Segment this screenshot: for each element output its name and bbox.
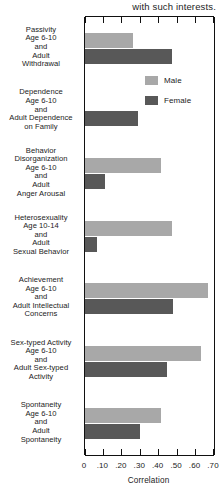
bar-male-5 — [85, 346, 201, 361]
x-axis-tick-bot-7 — [213, 449, 214, 455]
plot-area: MaleFemale — [84, 17, 215, 455]
bar-female-0 — [85, 49, 172, 64]
category-label: HeterosexualityAge 10-14andAdultSexual B… — [0, 214, 82, 257]
x-tick-label: .50 — [170, 461, 181, 470]
axis-line-bottom — [85, 455, 214, 456]
category-label-line: Spontaneity — [0, 436, 82, 445]
x-axis-tick-bot-6 — [195, 449, 196, 455]
x-axis-tick-bot-5 — [177, 449, 178, 455]
category-label-line: Anger Arousal — [0, 190, 82, 199]
x-axis-tick-top-3 — [140, 17, 141, 23]
category-label: AchievementAge 6-10andAdult Intellectual… — [0, 276, 82, 319]
category-label-line: Concerns — [0, 310, 82, 319]
bar-chart-figure: PassivityAge 6-10andAdultWithdrawalDepen… — [0, 15, 222, 491]
chart-legend: MaleFemale — [145, 73, 211, 113]
x-tick-label: .10 — [97, 461, 108, 470]
x-axis-tick-top-1 — [103, 17, 104, 23]
legend-item: Female — [145, 93, 211, 108]
x-axis-tick-top-6 — [195, 17, 196, 23]
x-axis-tick-top-2 — [121, 17, 122, 23]
category-label: SpontaneityAge 6-10andAdultSpontaneity — [0, 401, 82, 444]
category-label-column: PassivityAge 6-10andAdultWithdrawalDepen… — [0, 15, 84, 455]
legend-label: Male — [164, 76, 182, 85]
category-label-line: on Family — [0, 123, 82, 132]
x-tick-label: .20 — [115, 461, 126, 470]
bar-female-3 — [85, 237, 97, 252]
x-axis-tick-top-5 — [177, 17, 178, 23]
legend-label: Female — [164, 96, 191, 105]
x-axis-tick-top-4 — [158, 17, 159, 23]
figure-caption: with such interests. — [0, 0, 222, 15]
x-tick-label: .70 — [207, 461, 218, 470]
x-axis-tick-bot-3 — [140, 449, 141, 455]
x-axis-tick-bot-0 — [84, 449, 85, 455]
x-axis-tick-bot-1 — [103, 449, 104, 455]
category-label: BehaviorDisorganizationAge 6-10andAdultA… — [0, 147, 82, 199]
category-label: PassivityAge 6-10andAdultWithdrawal — [0, 26, 82, 69]
x-axis-tick-top-0 — [84, 17, 85, 23]
bar-male-3 — [85, 221, 172, 236]
legend-item: Male — [145, 73, 211, 88]
x-axis-tick-bot-2 — [121, 449, 122, 455]
bar-male-0 — [85, 33, 133, 48]
bar-male-2 — [85, 158, 161, 173]
x-tick-label: .30 — [134, 461, 145, 470]
legend-swatch-female — [145, 96, 158, 105]
bar-female-4 — [85, 299, 173, 314]
category-label: Sex-typed ActivityAge 6-10andAdult Sex-t… — [0, 339, 82, 382]
x-axis-tick-labels: 0.10.20.30.40.50.60.70 — [84, 461, 213, 473]
category-label-line: Activity — [0, 373, 82, 382]
x-tick-label: .40 — [152, 461, 163, 470]
bar-female-2 — [85, 174, 105, 189]
x-axis-tick-top-7 — [213, 17, 214, 23]
x-axis-title: Correlation — [84, 476, 213, 485]
bar-female-1 — [85, 111, 138, 126]
bar-female-6 — [85, 424, 140, 439]
bar-male-4 — [85, 283, 208, 298]
x-tick-label: .60 — [189, 461, 200, 470]
legend-swatch-male — [145, 76, 158, 85]
category-label-line: Withdrawal — [0, 60, 82, 69]
category-label-line: Sexual Behavior — [0, 248, 82, 257]
bar-female-5 — [85, 362, 167, 377]
category-label: DependenceAge 6-10andAdult Dependenceon … — [0, 88, 82, 131]
x-axis-tick-bot-4 — [158, 449, 159, 455]
bar-male-6 — [85, 408, 161, 423]
x-tick-label: 0 — [82, 461, 87, 470]
